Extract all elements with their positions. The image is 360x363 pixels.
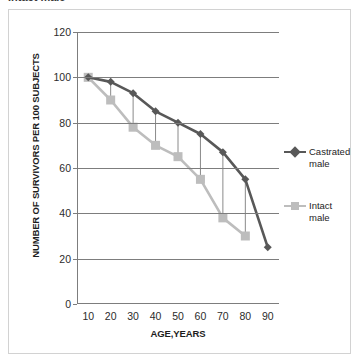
y-tick-label-100: 100 bbox=[53, 71, 71, 83]
y-axis-title: NUMBER OF SURVIVORS PER 100 SUBJECTS bbox=[30, 21, 41, 291]
y-tick-mark-20 bbox=[73, 259, 77, 260]
chart-frame: NUMBER OF SURVIVORS PER 100 SUBJECTS 020… bbox=[8, 9, 351, 354]
data-point-intact-male-20 bbox=[106, 96, 115, 105]
data-point-intact-male-70 bbox=[218, 213, 227, 222]
y-tick-label-80: 80 bbox=[59, 117, 71, 129]
legend-item-castrated-male: Castrated male bbox=[284, 146, 354, 170]
legend-label-castrated-male: Castrated male bbox=[309, 146, 354, 170]
y-tick-mark-120 bbox=[73, 32, 77, 33]
gridline-y-120 bbox=[77, 32, 279, 33]
x-tick-label-90: 90 bbox=[262, 310, 274, 322]
y-tick-label-40: 40 bbox=[59, 207, 71, 219]
x-tick-label-30: 30 bbox=[127, 310, 139, 322]
data-point-intact-male-80 bbox=[241, 232, 250, 241]
y-tick-mark-60 bbox=[73, 168, 77, 169]
legend-item-intact-male: Intact male bbox=[284, 200, 354, 224]
y-tick-mark-40 bbox=[73, 213, 77, 214]
y-tick-label-20: 20 bbox=[59, 253, 71, 265]
y-tick-mark-100 bbox=[73, 77, 77, 78]
data-point-intact-male-40 bbox=[151, 141, 160, 150]
x-tick-label-60: 60 bbox=[195, 310, 207, 322]
legend-marker-diamond-icon bbox=[284, 146, 306, 158]
y-tick-label-0: 0 bbox=[65, 298, 71, 310]
gridline-y-40 bbox=[77, 213, 279, 214]
gridline-y-80 bbox=[77, 123, 279, 124]
x-axis-title: AGE,YEARS bbox=[77, 328, 279, 339]
x-tick-label-80: 80 bbox=[239, 310, 251, 322]
y-tick-label-120: 120 bbox=[53, 26, 71, 38]
cropped-heading-text: Intact male bbox=[8, 0, 65, 3]
data-point-intact-male-30 bbox=[129, 123, 138, 132]
data-point-intact-male-50 bbox=[174, 152, 183, 161]
y-tick-mark-80 bbox=[73, 123, 77, 124]
legend-label-intact-male: Intact male bbox=[309, 200, 354, 224]
gridline-y-20 bbox=[77, 259, 279, 260]
legend-marker-square-icon bbox=[284, 200, 306, 212]
x-tick-label-10: 10 bbox=[82, 310, 94, 322]
gridline-y-60 bbox=[77, 168, 279, 169]
x-tick-label-40: 40 bbox=[150, 310, 162, 322]
y-tick-label-60: 60 bbox=[59, 162, 71, 174]
x-tick-label-70: 70 bbox=[217, 310, 229, 322]
chart-legend: Castrated male Intact male bbox=[284, 146, 354, 254]
cropped-heading-strip: Intact male bbox=[0, 0, 360, 8]
plot-area: 020406080100120102030405060708090 bbox=[77, 32, 279, 304]
data-point-castrated-male-90 bbox=[264, 243, 272, 251]
x-tick-label-50: 50 bbox=[172, 310, 184, 322]
data-point-intact-male-60 bbox=[196, 175, 205, 184]
gridline-y-100 bbox=[77, 77, 279, 78]
x-tick-label-20: 20 bbox=[105, 310, 117, 322]
y-tick-mark-0 bbox=[73, 304, 77, 305]
